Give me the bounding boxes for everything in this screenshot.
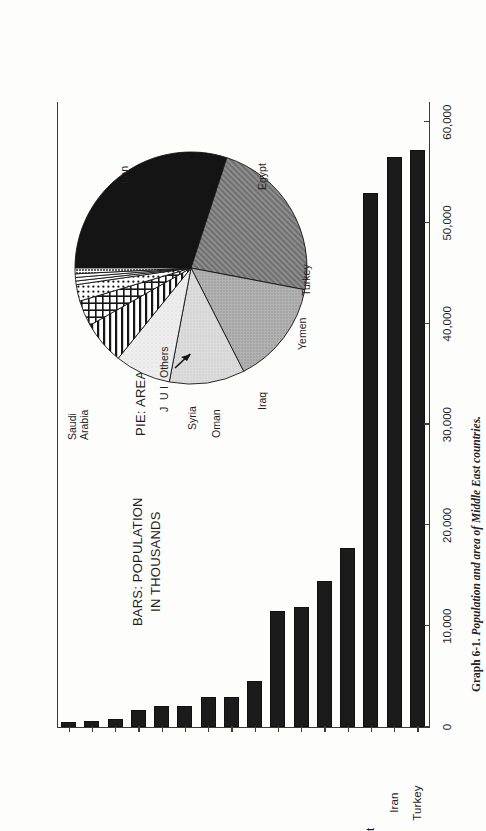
- pie-label-i: I: [159, 386, 171, 389]
- bar-row: Yemen: [270, 611, 285, 727]
- value-tick-label: 0: [441, 723, 453, 729]
- bar-row: UAE: [154, 705, 169, 726]
- pie-label-j: J: [159, 406, 171, 411]
- pie-label-oman: Oman: [211, 409, 223, 438]
- value-tick: [424, 625, 430, 626]
- category-tick: [371, 726, 372, 732]
- bar-row: Iraq: [340, 547, 355, 726]
- category-tick: [185, 726, 186, 732]
- bar-row: Israel: [247, 680, 262, 726]
- pie-label-turkey: Turkey: [301, 264, 313, 296]
- figure-stage: QatarBahrainCyprusOmanUAEKuwaitLebanonJo…: [43, 86, 443, 746]
- pie-label-yemen: Yemen: [297, 317, 309, 349]
- pie-label-saudi-arabia-line1: Saudi: [66, 413, 78, 440]
- bars-title-line1: BARS: POPULATION: [129, 497, 147, 626]
- value-tick-label: 60,000: [441, 104, 453, 139]
- value-tick-label: 40,000: [441, 306, 453, 341]
- category-tick: [324, 726, 325, 732]
- bar: [201, 696, 216, 726]
- value-tick: [424, 524, 430, 525]
- bar: [177, 705, 192, 726]
- others-pointer-arrow-icon: [173, 340, 197, 370]
- category-tick: [255, 726, 256, 732]
- bar: [317, 580, 332, 726]
- bar-row: Kuwait: [177, 705, 192, 726]
- figure-caption-number: Graph 6-1.: [470, 638, 482, 692]
- category-tick: [417, 726, 418, 732]
- bar: [294, 607, 309, 727]
- value-axis: [429, 102, 430, 728]
- category-tick: [348, 726, 349, 732]
- bar-category-label: Turkey: [410, 776, 425, 820]
- category-tick: [69, 726, 70, 732]
- bar-row: Syria: [294, 607, 309, 727]
- bars-title: BARS: POPULATION IN THOUSANDS: [129, 497, 164, 626]
- pie-label-iraq: Iraq: [257, 391, 269, 409]
- bar-row: Cyprus: [108, 719, 123, 727]
- value-tick: [424, 725, 430, 726]
- category-tick: [301, 726, 302, 732]
- pie-label-syria: Syria: [187, 406, 199, 430]
- category-tick: [208, 726, 209, 732]
- category-tick: [138, 726, 139, 732]
- bar: [340, 547, 355, 726]
- bar-row: Saudi Arabia: [317, 580, 332, 726]
- bar: [131, 709, 146, 726]
- pie-label-saudi-arabia: Saudi Arabia: [67, 409, 90, 439]
- bars-title-line2: IN THOUSANDS: [147, 497, 165, 626]
- bar-row: Lebanon: [201, 696, 216, 726]
- pie-label-iran: Iran: [119, 165, 131, 183]
- value-tick-label: 30,000: [441, 407, 453, 442]
- pie-label-saudi-arabia-line2: Arabia: [78, 409, 90, 439]
- bar: [363, 192, 378, 726]
- value-tick: [424, 322, 430, 323]
- bar-category-label: Egypt: [363, 818, 378, 831]
- figure-caption-text: Population and area of Middle East count…: [470, 416, 482, 635]
- pie-chart: PIE: AREA: [61, 146, 321, 446]
- pie-label-others: Others: [159, 346, 171, 378]
- value-tick: [424, 120, 430, 121]
- bar: [224, 696, 239, 726]
- bar: [270, 611, 285, 727]
- bar: [154, 705, 169, 726]
- bar-row: Iran: [387, 157, 402, 727]
- bar-row: Bahrain: [84, 721, 99, 727]
- bar-row: Qatar: [61, 721, 76, 726]
- value-tick: [424, 423, 430, 424]
- bar: [247, 680, 262, 726]
- bar: [410, 150, 425, 727]
- value-tick-label: 50,000: [441, 205, 453, 240]
- category-tick: [162, 726, 163, 732]
- pie-label-u: U: [159, 392, 171, 400]
- category-tick: [92, 726, 93, 732]
- value-tick: [424, 221, 430, 222]
- value-tick-label: 10,000: [441, 608, 453, 643]
- bar-row: Egypt: [363, 192, 378, 726]
- scanned-page: QatarBahrainCyprusOmanUAEKuwaitLebanonJo…: [0, 0, 486, 831]
- bar: [387, 157, 402, 727]
- bar-category-label: Iran: [387, 783, 402, 812]
- value-tick-label: 20,000: [441, 507, 453, 542]
- figure-caption: Graph 6-1. Population and area of Middle…: [470, 416, 482, 692]
- category-tick: [115, 726, 116, 732]
- category-tick: [394, 726, 395, 732]
- bar-row: Oman: [131, 709, 146, 726]
- pie-label-egypt: Egypt: [257, 163, 269, 190]
- category-tick: [278, 726, 279, 732]
- bar-row: Turkey: [410, 150, 425, 727]
- category-tick: [231, 726, 232, 732]
- bar-row: Jordan: [224, 696, 239, 726]
